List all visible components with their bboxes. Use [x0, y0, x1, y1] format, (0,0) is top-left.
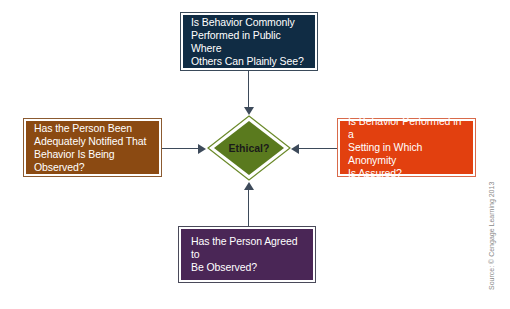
arrow-left-icon: [291, 144, 299, 154]
right-connector: [297, 148, 337, 149]
arrow-up-icon: [244, 182, 254, 190]
left-criterion-box: Has the Person Been Adequately Notified …: [23, 118, 162, 177]
bottom-criterion-text: Has the Person Agreed to Be Observed?: [191, 235, 305, 274]
right-criterion-text: Is Behavior Performed in a Setting in Wh…: [348, 115, 465, 180]
source-credit: Source: © Cengage Learning 2013: [488, 182, 495, 290]
arrow-down-icon: [244, 107, 254, 115]
left-criterion-fill: Has the Person Been Adequately Notified …: [26, 121, 159, 174]
top-criterion-box: Is Behavior Commonly Performed in Public…: [180, 12, 318, 71]
decision-label: Ethical?: [207, 115, 291, 181]
arrow-right-icon: [198, 144, 206, 154]
left-criterion-text: Has the Person Been Adequately Notified …: [34, 122, 151, 174]
right-criterion-box: Is Behavior Performed in a Setting in Wh…: [337, 118, 476, 177]
ethical-decision-diamond: Ethical?: [207, 115, 291, 181]
top-connector: [248, 71, 249, 109]
bottom-criterion-fill: Has the Person Agreed to Be Observed?: [181, 229, 313, 280]
left-connector: [162, 148, 200, 149]
right-criterion-fill: Is Behavior Performed in a Setting in Wh…: [340, 121, 473, 174]
top-criterion-text: Is Behavior Commonly Performed in Public…: [191, 16, 307, 68]
bottom-criterion-box: Has the Person Agreed to Be Observed?: [178, 226, 316, 283]
top-criterion-fill: Is Behavior Commonly Performed in Public…: [183, 15, 315, 68]
bottom-connector: [248, 189, 249, 226]
